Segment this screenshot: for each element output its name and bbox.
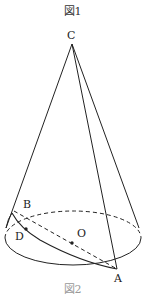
label-C: C — [67, 29, 75, 42]
segment-BA-dashed — [14, 211, 117, 269]
right-generator — [72, 44, 139, 228]
figure-bottom-caption: 図2 — [0, 280, 145, 296]
left-generator — [6, 44, 72, 228]
label-O: O — [77, 227, 86, 240]
point-D — [24, 227, 27, 230]
label-B: B — [23, 198, 31, 211]
base-back-arc — [5, 211, 141, 238]
label-D: D — [15, 230, 24, 243]
point-O — [70, 241, 73, 244]
